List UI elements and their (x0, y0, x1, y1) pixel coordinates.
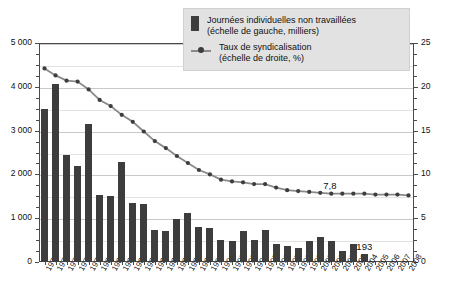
line-marker (164, 146, 168, 150)
line-marker (76, 79, 80, 83)
legend-item-bars: Journées individuelles non travaillées (… (191, 15, 402, 37)
right-axis-tick (414, 87, 418, 88)
left-axis-tick-label: 0 (0, 256, 32, 266)
left-axis-tick-label: 4 000 (0, 81, 32, 91)
line-marker (263, 182, 267, 186)
line-swatch-icon (191, 43, 211, 58)
line-marker (53, 73, 57, 77)
left-axis-tick-label: 2 000 (0, 168, 32, 178)
right-axis-minor-tick (414, 153, 417, 154)
right-axis-tick (414, 174, 418, 175)
legend-label-bars-line2: (échelle de gauche, milliers) (207, 26, 356, 37)
line-marker (175, 154, 179, 158)
line-marker (340, 192, 344, 196)
line-marker (120, 113, 124, 117)
line-marker (153, 139, 157, 143)
line-swatch-marker (198, 47, 204, 53)
line-marker (64, 79, 68, 83)
right-axis-tick-label: 15 (421, 125, 430, 135)
line-marker (307, 190, 311, 194)
left-axis-tick-label: 1 000 (0, 212, 32, 222)
left-axis-tick-label: 3 000 (0, 125, 32, 135)
line-marker (87, 87, 91, 91)
chart-legend: Journées individuelles non travaillées (… (183, 8, 410, 71)
data-annotation: 7,8 (323, 180, 336, 191)
line-marker (296, 189, 300, 193)
left-axis-tick-label: 5 000 (0, 37, 32, 47)
line-series-svg (39, 43, 414, 262)
right-axis-minor-tick (414, 240, 417, 241)
line-marker (230, 179, 234, 183)
legend-label-bars: Journées individuelles non travaillées (… (207, 15, 356, 37)
line-path (45, 68, 409, 195)
right-axis-minor-tick (414, 185, 417, 186)
line-marker (329, 192, 333, 196)
right-axis-minor-tick (414, 142, 417, 143)
right-axis-minor-tick (414, 65, 417, 66)
legend-item-line: Taux de syndicalisation (échelle de droi… (191, 42, 402, 64)
left-axis-tick (35, 262, 39, 263)
chart-container: 01 0002 0003 0004 0005 000 0510152025 19… (0, 0, 452, 301)
line-marker (42, 66, 46, 70)
data-annotation: 193 (356, 241, 372, 252)
line-marker (208, 172, 212, 176)
right-axis-tick-label: 10 (421, 168, 430, 178)
line-marker (362, 192, 366, 196)
line-marker (318, 191, 322, 195)
right-axis-tick-label: 20 (421, 81, 430, 91)
right-axis-tick (414, 43, 418, 44)
line-marker (241, 180, 245, 184)
line-marker (131, 120, 135, 124)
right-axis-minor-tick (414, 207, 417, 208)
right-axis-minor-tick (414, 196, 417, 197)
right-axis-tick (414, 131, 418, 132)
right-axis-minor-tick (414, 76, 417, 77)
right-axis-tick (414, 218, 418, 219)
legend-label-line: Taux de syndicalisation (échelle de droi… (219, 42, 312, 64)
right-axis-tick-label: 5 (421, 212, 426, 222)
right-axis-tick-label: 25 (421, 37, 430, 47)
right-axis-minor-tick (414, 120, 417, 121)
line-marker (351, 192, 355, 196)
line-series (39, 43, 414, 262)
line-marker (373, 192, 377, 196)
line-marker (142, 129, 146, 133)
bar-swatch-icon (191, 16, 199, 31)
right-axis-minor-tick (414, 98, 417, 99)
line-marker (285, 188, 289, 192)
legend-label-bars-line1: Journées individuelles non travaillées (207, 15, 356, 25)
line-marker (406, 193, 410, 197)
right-axis-minor-tick (414, 109, 417, 110)
legend-label-line-line2: (échelle de droite, %) (219, 53, 312, 64)
line-marker (186, 161, 190, 165)
line-marker (384, 192, 388, 196)
line-marker (109, 104, 113, 108)
legend-label-line-line1: Taux de syndicalisation (219, 42, 312, 52)
line-marker (395, 192, 399, 196)
right-axis-minor-tick (414, 229, 417, 230)
line-marker (274, 185, 278, 189)
line-marker (252, 182, 256, 186)
right-axis-minor-tick (414, 163, 417, 164)
line-marker (98, 98, 102, 102)
right-axis-minor-tick (414, 54, 417, 55)
line-marker (219, 178, 223, 182)
line-marker (197, 168, 201, 172)
